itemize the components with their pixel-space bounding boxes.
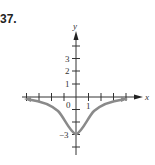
origin-label: 0 [66,100,71,110]
graph: y x 0 1 1 2 3 −3 [0,0,155,165]
x-axis-label: x [144,92,149,102]
y-tick-label-neg3: −3 [59,130,69,140]
y-axis-label: y [72,21,77,31]
y-tick-label-2: 2 [65,66,70,76]
x-tick-label-1: 1 [86,101,91,111]
x-axis-arrow-icon [134,95,143,100]
y-tick-label-1: 1 [65,79,70,89]
y-axis-arrow-icon [74,31,79,40]
y-tick-label-3: 3 [65,54,70,64]
